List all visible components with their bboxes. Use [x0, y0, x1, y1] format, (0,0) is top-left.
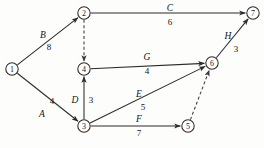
node-label: 7 — [251, 9, 255, 18]
activity-name-label: F — [135, 114, 142, 124]
node-label: 3 — [82, 122, 86, 131]
activity-name-label: G — [144, 52, 151, 62]
edge-dummy-5-6 — [190, 70, 209, 120]
node-label: 6 — [210, 59, 214, 68]
activity-name-label: A — [38, 109, 45, 119]
node-7: 7 — [247, 7, 259, 19]
activity-duration-label: 3 — [234, 44, 239, 54]
edge-activity-a — [17, 73, 78, 121]
node-label: 4 — [82, 65, 86, 74]
node-4: 4 — [78, 63, 90, 75]
activity-duration-label: 6 — [168, 17, 173, 27]
node-label: 1 — [10, 65, 14, 74]
activity-name-label: E — [135, 89, 142, 99]
activity-name-label: H — [224, 31, 233, 41]
node-label: 5 — [186, 122, 190, 131]
node-6: 6 — [206, 57, 218, 69]
activity-name-label: B — [40, 30, 46, 40]
activity-duration-label: 4 — [145, 66, 150, 76]
activity-duration-label: 8 — [47, 42, 52, 52]
node-1: 1 — [6, 63, 18, 75]
activity-duration-label: 4 — [50, 96, 55, 106]
activity-name-label: C — [167, 3, 174, 13]
activity-name-label: D — [71, 95, 79, 105]
labels-layer: B8A4C6D3G4E5F7H3 — [38, 3, 239, 138]
node-label: 2 — [82, 9, 86, 18]
activity-duration-label: 7 — [137, 128, 142, 138]
activity-duration-label: 3 — [89, 95, 94, 105]
activity-duration-label: 5 — [141, 102, 146, 112]
node-5: 5 — [182, 120, 194, 132]
project-network-diagram: 1234567 B8A4C6D3G4E5F7H3 — [0, 0, 264, 148]
edge-activity-h — [216, 19, 248, 58]
network-canvas: 1234567 B8A4C6D3G4E5F7H3 — [0, 0, 264, 148]
node-3: 3 — [78, 120, 90, 132]
node-2: 2 — [78, 7, 90, 19]
